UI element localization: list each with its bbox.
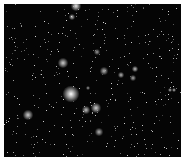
faint-star bbox=[85, 121, 86, 122]
faint-star bbox=[130, 97, 131, 98]
faint-star bbox=[137, 107, 138, 108]
faint-star bbox=[6, 122, 7, 123]
faint-star bbox=[28, 54, 29, 55]
faint-star bbox=[169, 50, 170, 51]
star-field-image bbox=[4, 4, 181, 157]
faint-star bbox=[25, 134, 26, 135]
faint-star bbox=[109, 66, 110, 67]
faint-star bbox=[81, 56, 82, 57]
faint-star bbox=[38, 107, 39, 108]
faint-star bbox=[97, 20, 98, 21]
faint-star bbox=[74, 47, 75, 48]
faint-star bbox=[54, 75, 55, 76]
faint-star bbox=[35, 36, 36, 37]
faint-star bbox=[16, 133, 17, 134]
faint-star bbox=[73, 50, 74, 51]
faint-star bbox=[12, 39, 13, 40]
faint-star bbox=[164, 87, 165, 88]
faint-star bbox=[21, 51, 22, 52]
faint-star bbox=[34, 65, 35, 66]
faint-star bbox=[41, 70, 42, 71]
faint-star bbox=[131, 26, 132, 27]
faint-star bbox=[23, 155, 24, 156]
faint-star bbox=[115, 130, 116, 131]
faint-star bbox=[26, 48, 27, 49]
faint-star bbox=[160, 154, 161, 155]
faint-star bbox=[17, 115, 18, 116]
faint-star bbox=[144, 139, 145, 140]
faint-star bbox=[40, 74, 41, 75]
faint-star bbox=[139, 43, 140, 44]
faint-star bbox=[79, 88, 80, 89]
bright-star bbox=[91, 103, 101, 113]
faint-star bbox=[59, 83, 60, 84]
faint-star bbox=[142, 125, 143, 126]
faint-star bbox=[168, 11, 169, 12]
faint-star bbox=[37, 129, 38, 130]
faint-star bbox=[111, 136, 112, 137]
faint-star bbox=[42, 139, 43, 140]
faint-star bbox=[83, 48, 84, 49]
faint-star bbox=[102, 9, 103, 10]
faint-star bbox=[89, 9, 90, 10]
bright-star bbox=[82, 106, 90, 114]
faint-star bbox=[142, 92, 143, 93]
faint-star bbox=[81, 26, 82, 27]
faint-star bbox=[50, 54, 51, 55]
faint-star bbox=[130, 109, 131, 110]
faint-star bbox=[155, 81, 156, 82]
faint-star bbox=[135, 4, 136, 5]
faint-star bbox=[147, 54, 148, 55]
faint-star bbox=[173, 71, 174, 72]
faint-star bbox=[152, 144, 153, 145]
faint-star bbox=[168, 38, 169, 39]
faint-star bbox=[72, 146, 73, 147]
faint-star bbox=[68, 76, 69, 77]
faint-star bbox=[12, 65, 13, 66]
faint-star bbox=[161, 99, 162, 100]
faint-star bbox=[178, 44, 179, 45]
faint-star bbox=[165, 104, 166, 105]
faint-star bbox=[38, 57, 39, 58]
faint-star bbox=[87, 19, 88, 20]
bright-star bbox=[23, 110, 33, 120]
faint-star bbox=[117, 10, 118, 11]
faint-star bbox=[131, 42, 132, 43]
faint-star bbox=[136, 11, 137, 12]
faint-star bbox=[64, 9, 65, 10]
faint-star bbox=[62, 127, 63, 128]
faint-star bbox=[92, 61, 93, 62]
faint-star bbox=[48, 23, 49, 24]
faint-star bbox=[101, 122, 102, 123]
faint-star bbox=[103, 22, 104, 23]
faint-star bbox=[143, 7, 144, 8]
faint-star bbox=[156, 104, 157, 105]
faint-star bbox=[17, 126, 18, 127]
bright-star bbox=[100, 67, 108, 75]
faint-star bbox=[7, 71, 8, 72]
faint-star bbox=[173, 133, 174, 134]
faint-star bbox=[130, 99, 131, 100]
faint-star bbox=[168, 14, 169, 15]
faint-star bbox=[171, 82, 172, 83]
faint-star bbox=[16, 142, 17, 143]
faint-star bbox=[177, 54, 178, 55]
faint-star bbox=[93, 35, 94, 36]
faint-star bbox=[57, 74, 58, 75]
faint-star bbox=[65, 134, 66, 135]
faint-star bbox=[91, 67, 92, 68]
bright-star bbox=[69, 14, 75, 20]
faint-star bbox=[162, 115, 163, 116]
faint-star bbox=[35, 156, 36, 157]
faint-star bbox=[106, 50, 107, 51]
faint-star bbox=[45, 84, 46, 85]
faint-star bbox=[145, 35, 146, 36]
faint-star bbox=[132, 127, 133, 128]
faint-star bbox=[107, 106, 108, 107]
faint-star bbox=[114, 72, 115, 73]
faint-star bbox=[54, 144, 55, 145]
faint-star bbox=[152, 131, 153, 132]
faint-star bbox=[24, 59, 25, 60]
faint-star bbox=[95, 24, 96, 25]
faint-star bbox=[89, 135, 90, 136]
